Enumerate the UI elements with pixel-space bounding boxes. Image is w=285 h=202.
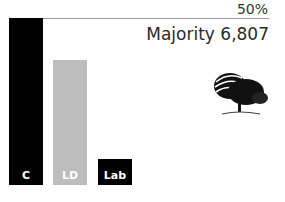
bar-ld: LD xyxy=(53,60,87,185)
fifty-percent-label: 50% xyxy=(237,1,268,17)
majority-label: Majority 6,807 xyxy=(146,24,269,44)
bar-label-c: C xyxy=(22,169,30,185)
bar-label-lab: Lab xyxy=(104,169,126,185)
fifty-percent-line xyxy=(43,18,269,19)
bar-c: C xyxy=(9,18,43,185)
bar-lab: Lab xyxy=(98,159,132,185)
conservative-tree-icon xyxy=(208,68,270,118)
bar-label-ld: LD xyxy=(62,169,78,185)
